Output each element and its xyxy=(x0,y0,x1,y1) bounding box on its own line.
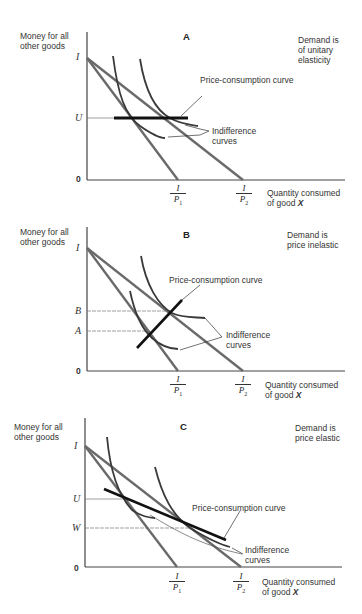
x-axis-label: Quantity consumed of good X xyxy=(262,577,335,597)
x-axis-label-line1: Quantity consumed xyxy=(262,577,335,587)
note-line1: Demand is xyxy=(295,423,340,433)
frac-sub: 2 xyxy=(242,588,245,594)
pcc-label: Price-consumption curve xyxy=(192,503,286,513)
panel-c: Money for all other goods C Demand is pr… xyxy=(0,0,362,614)
note-line2: price elastic xyxy=(295,433,340,443)
frac-sub: 1 xyxy=(178,588,181,594)
x-tick-i-over-p1: I P1 xyxy=(169,571,185,596)
y-axis-label: Money for all other goods xyxy=(14,422,63,442)
frac-num: I xyxy=(169,571,185,582)
y-tick-zero: 0 xyxy=(74,563,79,573)
elasticity-note: Demand is price elastic xyxy=(295,423,340,443)
y-tick-w: W xyxy=(72,523,80,533)
panel-title: C xyxy=(180,421,187,432)
y-axis-label-line2: other goods xyxy=(14,432,63,442)
ic-label: Indifference curves xyxy=(245,545,289,565)
x-tick-i-over-p2: I P2 xyxy=(233,571,249,596)
x-axis-var: X xyxy=(293,587,299,597)
ic-label-line2: curves xyxy=(245,555,289,565)
y-tick-u: U xyxy=(73,494,80,504)
y-axis-label-line1: Money for all xyxy=(14,422,63,432)
y-tick-i: I xyxy=(74,441,77,451)
frac-num: I xyxy=(233,571,249,582)
x-axis-label-line2: of good xyxy=(262,587,293,597)
ic-label-line1: Indifference xyxy=(245,545,289,555)
